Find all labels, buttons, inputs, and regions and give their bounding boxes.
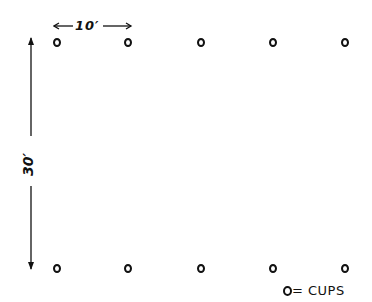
- cup-icon: [197, 38, 205, 47]
- cup-icon: [53, 264, 61, 273]
- legend-cup-icon: [283, 286, 292, 296]
- cup-icon: [341, 38, 349, 47]
- vertical-dimension-label: 30′: [20, 153, 36, 176]
- horizontal-dimension-label: 10′: [75, 18, 100, 33]
- cup-icon: [269, 264, 277, 273]
- cup-icon: [124, 264, 132, 273]
- cup-icon: [197, 264, 205, 273]
- legend: = CUPS: [283, 283, 345, 298]
- cup-icon: [269, 38, 277, 47]
- legend-text: = CUPS: [292, 283, 345, 298]
- horizontal-dimension: 10′: [53, 18, 133, 32]
- cup-icon: [124, 38, 132, 47]
- cup-icon: [341, 264, 349, 273]
- cup-icon: [53, 38, 61, 47]
